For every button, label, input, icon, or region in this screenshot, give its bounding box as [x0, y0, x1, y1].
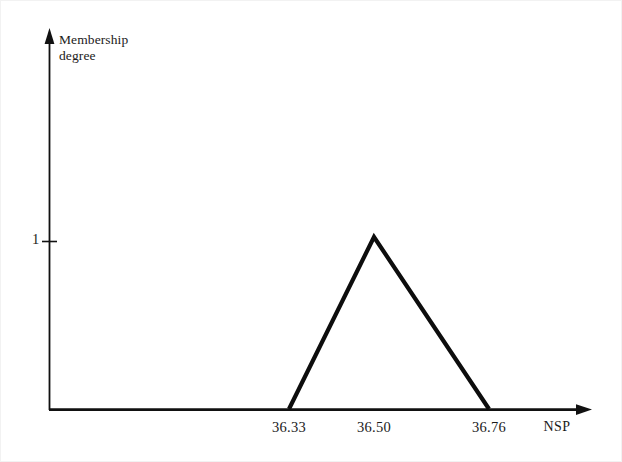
x-axis-arrowhead-icon	[576, 404, 592, 415]
y-axis-arrowhead-icon	[45, 28, 55, 44]
membership-function-plot	[1, 1, 622, 462]
y-axis-label-line2: degree	[59, 48, 96, 63]
y-axis-label-line1: Membership	[59, 32, 128, 47]
chart-canvas: Membershipdegree 1 36.33 36.50 36.76 NSP	[0, 0, 622, 462]
x-axis	[49, 404, 592, 415]
y-axis-label: Membershipdegree	[59, 32, 128, 64]
y-tick-label-1: 1	[32, 231, 39, 248]
x-tick-label-36-33: 36.33	[272, 419, 306, 436]
x-axis-title: NSP	[544, 419, 571, 436]
membership-function-curve	[289, 237, 489, 409]
x-tick-label-36-76: 36.76	[472, 419, 506, 436]
x-tick-label-36-50: 36.50	[357, 419, 391, 436]
y-axis	[45, 28, 55, 410]
